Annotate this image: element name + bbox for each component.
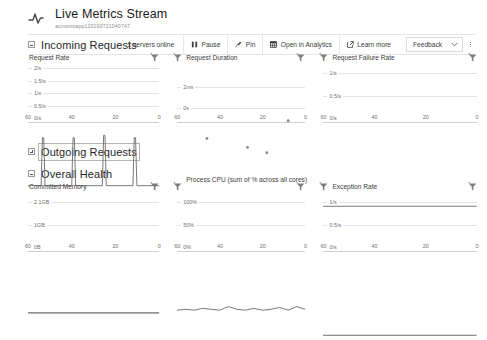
x-tick-label: 60 bbox=[320, 243, 326, 249]
chart-title: Process CPU (sum of % across all cores) bbox=[186, 176, 307, 183]
chart-exception-rate: Exception Rate 1/s 0.5/s 0/s 6040200 bbox=[307, 181, 479, 263]
chart-plot: 2.1GB 1GB 0B 6040200 bbox=[20, 194, 161, 252]
x-tick-label: 20 bbox=[260, 114, 266, 120]
data-point bbox=[266, 151, 269, 154]
series-line bbox=[177, 194, 305, 322]
expand-toggle-icon[interactable] bbox=[28, 148, 35, 155]
x-tick-label: 40 bbox=[69, 114, 75, 120]
x-tick-label: 40 bbox=[372, 114, 378, 120]
x-tick-label: 40 bbox=[217, 114, 223, 120]
x-tick-label: 20 bbox=[112, 243, 118, 249]
chart-plot: 2/s 1.5/s 1/s 0.5/s 0/s 6040200 bbox=[20, 65, 161, 123]
page-header: Live Metrics Stream acmonixapp1201907210… bbox=[0, 0, 487, 28]
data-point bbox=[206, 137, 209, 140]
pulse-icon bbox=[28, 10, 48, 26]
chart-committed-memory: Committed Memory 2.1GB 1GB 0B 6040200 bbox=[20, 181, 161, 263]
pin-icon bbox=[235, 41, 242, 48]
analytics-grid-icon bbox=[270, 41, 277, 48]
x-tick-label: 20 bbox=[112, 114, 118, 120]
x-tick-label: 60 bbox=[174, 114, 180, 120]
add-filter-icon[interactable] bbox=[148, 52, 160, 63]
chart-header: Exception Rate bbox=[315, 181, 479, 194]
pause-label: Pause bbox=[202, 41, 221, 48]
chart-title: Exception Rate bbox=[332, 183, 377, 190]
chart-title: Request Duration bbox=[186, 54, 237, 61]
overflow-dot bbox=[470, 42, 471, 43]
x-tick-label: 40 bbox=[372, 243, 378, 249]
x-tick-label: 20 bbox=[423, 243, 429, 249]
x-tick-label: 20 bbox=[260, 243, 266, 249]
x-tick-label: 0 bbox=[475, 243, 478, 249]
x-tick-label: 40 bbox=[217, 243, 223, 249]
add-filter-icon[interactable] bbox=[466, 181, 478, 192]
data-point bbox=[246, 146, 249, 149]
x-tick-label: 0 bbox=[475, 114, 478, 120]
chart-title: Request Rate bbox=[29, 54, 69, 61]
add-filter-icon[interactable] bbox=[466, 52, 478, 63]
overall-health-chart-row: Committed Memory 2.1GB 1GB 0B 6040200 bbox=[20, 181, 479, 263]
add-filter-icon[interactable] bbox=[171, 181, 183, 192]
resource-name: acmonixapp120190721040747 bbox=[55, 24, 167, 29]
series-line bbox=[28, 194, 159, 325]
chart-plot: 1/s 0.5/s 0/s 6040200 bbox=[315, 65, 479, 123]
add-filter-icon[interactable] bbox=[171, 52, 183, 63]
x-tick-label: 20 bbox=[423, 114, 429, 120]
x-axis-ticks: 6040200 bbox=[28, 112, 159, 123]
chevron-down-icon bbox=[451, 42, 458, 47]
x-axis-ticks: 6040200 bbox=[177, 241, 305, 252]
chart-request-failure-rate: Request Failure Rate 1/s 0.5/s 0/s 60402… bbox=[307, 52, 479, 134]
x-tick-label: 60 bbox=[320, 114, 326, 120]
toolbar-overflow-button[interactable] bbox=[466, 41, 475, 48]
series-line bbox=[323, 194, 477, 340]
chart-header: Process CPU (sum of % across all cores) bbox=[169, 181, 307, 194]
chart-title: Committed Memory bbox=[29, 183, 87, 190]
chart-header: Request Rate bbox=[20, 52, 161, 65]
add-filter-icon[interactable] bbox=[294, 52, 306, 63]
pin-label: Pin bbox=[246, 41, 256, 48]
overflow-dot bbox=[470, 44, 471, 45]
learn-more-label: Learn more bbox=[357, 41, 391, 48]
page-title: Live Metrics Stream bbox=[55, 8, 167, 21]
add-filter-icon[interactable] bbox=[317, 181, 329, 192]
chart-request-duration: Request Duration 2ms 0s 6040200 bbox=[161, 52, 307, 134]
x-axis-ticks: 6040200 bbox=[28, 241, 159, 252]
x-tick-label: 60 bbox=[25, 114, 31, 120]
x-axis-ticks: 6040200 bbox=[323, 112, 477, 123]
x-axis-ticks: 6040200 bbox=[177, 112, 305, 123]
incoming-requests-chart-row: Request Rate 2/s 1.5/s 1/s 0.5/s 0/s bbox=[20, 52, 479, 134]
feedback-dropdown[interactable]: Feedback bbox=[406, 37, 463, 52]
add-filter-icon[interactable] bbox=[294, 181, 306, 192]
chart-request-rate: Request Rate 2/s 1.5/s 1/s 0.5/s 0/s bbox=[20, 52, 161, 134]
chart-header: Request Failure Rate bbox=[315, 52, 479, 65]
chart-header: Request Duration bbox=[169, 52, 307, 65]
add-filter-icon[interactable] bbox=[148, 181, 160, 192]
pause-icon bbox=[191, 41, 198, 48]
collapse-toggle-icon[interactable] bbox=[28, 170, 35, 177]
chart-plot: 100% 50% 0% 6040200 bbox=[169, 194, 307, 252]
feedback-label: Feedback bbox=[413, 41, 442, 48]
series-line bbox=[28, 65, 159, 196]
external-link-icon bbox=[347, 41, 354, 48]
chart-plot: 1/s 0.5/s 0/s 6040200 bbox=[315, 194, 479, 252]
chart-plot: 2ms 0s 6040200 bbox=[169, 65, 307, 123]
chart-process-cpu: Process CPU (sum of % across all cores) … bbox=[161, 181, 307, 263]
collapse-toggle-icon[interactable] bbox=[28, 41, 35, 48]
x-tick-label: 60 bbox=[25, 243, 31, 249]
x-axis-ticks: 6040200 bbox=[323, 241, 477, 252]
chart-title: Request Failure Rate bbox=[332, 54, 394, 61]
add-filter-icon[interactable] bbox=[317, 52, 329, 63]
overflow-dot bbox=[470, 46, 471, 47]
open-in-analytics-label: Open in Analytics bbox=[281, 41, 332, 48]
series-scatter bbox=[177, 65, 305, 193]
server-status-label: 1 servers online bbox=[128, 41, 175, 48]
x-tick-label: 60 bbox=[174, 243, 180, 249]
x-tick-label: 40 bbox=[69, 243, 75, 249]
chart-header: Committed Memory bbox=[20, 181, 161, 194]
